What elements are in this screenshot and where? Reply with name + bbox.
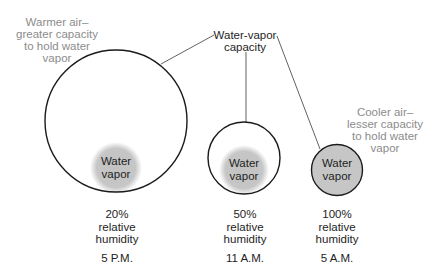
humidity-caption-medium: 50% relative humidity <box>224 208 267 246</box>
vapor-label-line-1: Water <box>229 157 259 170</box>
humidity-line-2: relative <box>316 221 359 234</box>
cooler-line-1: Cooler air– <box>347 106 423 118</box>
capacity-label: Water-vapor capacity <box>214 29 277 53</box>
vapor-label-small: Water vapor <box>322 157 352 183</box>
humidity-line-3: humidity <box>316 233 359 246</box>
vapor-label-line-2: vapor <box>322 170 352 183</box>
humidity-line-3: humidity <box>96 233 139 246</box>
humidity-line-3: humidity <box>224 233 267 246</box>
time-label-small: 5 A.M. <box>321 252 354 264</box>
warmer-line-1: Warmer air– <box>16 16 98 28</box>
capacity-line-1: Water-vapor <box>214 29 277 41</box>
humidity-caption-small: 100% relative humidity <box>316 208 359 246</box>
time-label-medium: 11 A.M. <box>226 252 264 264</box>
warmer-line-2: greater capacity <box>16 28 98 40</box>
vapor-label-medium: Water vapor <box>229 157 259 183</box>
vapor-label-large: Water vapor <box>101 155 131 181</box>
vapor-label-line-2: vapor <box>229 170 259 183</box>
humidity-caption-large: 20% relative humidity <box>96 208 139 246</box>
humidity-percent: 20% <box>96 208 139 221</box>
time-label-large: 5 P.M. <box>101 252 133 264</box>
warmer-line-4: vapor <box>16 52 98 64</box>
warmer-air-annotation: Warmer air– greater capacity to hold wat… <box>16 16 98 64</box>
cooler-line-3: to hold water <box>347 130 423 142</box>
cooler-air-annotation: Cooler air– lesser capacity to hold wate… <box>347 106 423 154</box>
capacity-line-2: capacity <box>214 41 277 53</box>
vapor-label-line-1: Water <box>322 157 352 170</box>
humidity-line-2: relative <box>224 221 267 234</box>
vapor-label-line-2: vapor <box>101 168 131 181</box>
humidity-percent: 100% <box>316 208 359 221</box>
cooler-line-4: vapor <box>347 142 423 154</box>
vapor-label-line-1: Water <box>101 155 131 168</box>
leader-line-small <box>277 36 320 149</box>
humidity-line-2: relative <box>96 221 139 234</box>
leader-line-large <box>161 35 214 64</box>
humidity-percent: 50% <box>224 208 267 221</box>
warmer-line-3: to hold water <box>16 40 98 52</box>
cooler-line-2: lesser capacity <box>347 118 423 130</box>
